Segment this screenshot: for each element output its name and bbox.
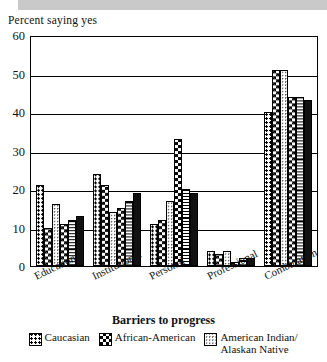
bar-group: [88, 37, 145, 266]
legend-label: American Indian/ Alaskan Native: [220, 332, 298, 355]
y-tick-10: 10: [13, 222, 26, 235]
y-tick-0: 0: [19, 261, 25, 274]
y-tick-50: 50: [13, 68, 26, 81]
legend-swatch-icon: [29, 333, 42, 346]
y-tick-30: 30: [13, 145, 26, 158]
bar: [207, 251, 215, 266]
legend-swatch-icon: [99, 333, 112, 346]
legend-item: African-American: [99, 332, 196, 346]
bar: [288, 97, 296, 266]
bar: [101, 185, 109, 266]
bar: [296, 97, 304, 266]
y-tick-60: 60: [13, 30, 26, 43]
bar-groups: [31, 37, 317, 266]
bar: [264, 112, 272, 266]
bar-group: [31, 37, 88, 266]
bar: [158, 220, 166, 266]
bar-group: [203, 37, 260, 266]
x-axis-title: Barriers to progress: [0, 313, 327, 328]
header-band: [18, 0, 327, 10]
bar: [272, 70, 280, 266]
bar-group: [260, 37, 317, 266]
y-axis-label: Percent saying yes: [8, 14, 97, 26]
bar: [182, 189, 190, 266]
bar: [36, 185, 44, 266]
plot-area: [30, 36, 318, 267]
bar: [190, 193, 198, 266]
bar: [150, 224, 158, 266]
bar-group: [145, 37, 202, 266]
bar: [44, 228, 52, 267]
bar: [93, 174, 101, 266]
bar: [280, 70, 288, 266]
y-tick-20: 20: [13, 184, 26, 197]
bar: [174, 139, 182, 266]
legend-item: Caucasian: [29, 332, 90, 346]
legend-label: Caucasian: [45, 332, 90, 344]
bar: [304, 100, 312, 266]
x-axis-tick-labels: EducationalInstitutionalPersonalProfessi…: [30, 267, 318, 313]
y-tick-40: 40: [13, 107, 26, 120]
legend-label: African-American: [115, 332, 196, 344]
bar: [166, 201, 174, 266]
legend-item: American Indian/ Alaskan Native: [204, 332, 298, 355]
chart-legend: CaucasianAfrican-AmericanAmerican Indian…: [0, 330, 327, 362]
y-axis-tick-labels: 0102030405060: [0, 36, 28, 267]
legend-swatch-icon: [204, 333, 217, 346]
